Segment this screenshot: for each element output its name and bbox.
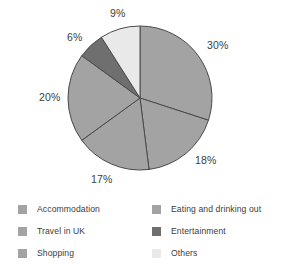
legend-item-label: Others bbox=[171, 249, 197, 258]
legend-item-label: Entertainment bbox=[171, 227, 226, 236]
value-label-6: 6% bbox=[67, 32, 83, 43]
legend-swatch-icon bbox=[18, 227, 27, 236]
legend-swatch-icon bbox=[18, 205, 27, 214]
pie-chart-plot-area: 9%6%30%20%18%17% bbox=[0, 0, 288, 196]
value-label-18: 18% bbox=[195, 155, 217, 166]
legend-swatch-icon bbox=[18, 249, 27, 258]
chart-legend: Accommodation Travel in UK Shopping Eati… bbox=[0, 198, 288, 273]
legend-item[interactable]: Eating and drinking out bbox=[152, 198, 261, 220]
legend-item-label: Eating and drinking out bbox=[171, 205, 261, 214]
legend-swatch-icon bbox=[152, 249, 161, 258]
legend-item-label: Accommodation bbox=[37, 205, 100, 214]
legend-item[interactable]: Travel in UK bbox=[18, 220, 100, 242]
value-label-20: 20% bbox=[39, 92, 61, 103]
legend-column-right: Eating and drinking out Entertainment Ot… bbox=[152, 198, 261, 264]
legend-item[interactable]: Accommodation bbox=[18, 198, 100, 220]
value-label-30: 30% bbox=[207, 40, 229, 51]
legend-item[interactable]: Others bbox=[152, 242, 261, 264]
legend-column-left: Accommodation Travel in UK Shopping bbox=[18, 198, 100, 264]
legend-swatch-icon bbox=[152, 227, 161, 236]
legend-swatch-icon bbox=[152, 205, 161, 214]
legend-item[interactable]: Shopping bbox=[18, 242, 100, 264]
value-label-17: 17% bbox=[91, 174, 113, 185]
pie-chart-figure: 9%6%30%20%18%17% Accommodation Travel in… bbox=[0, 0, 288, 273]
legend-item-label: Shopping bbox=[37, 249, 74, 258]
legend-item[interactable]: Entertainment bbox=[152, 220, 261, 242]
pie-slice-group bbox=[68, 26, 212, 170]
legend-item-label: Travel in UK bbox=[37, 227, 85, 236]
value-label-9: 9% bbox=[110, 8, 126, 19]
